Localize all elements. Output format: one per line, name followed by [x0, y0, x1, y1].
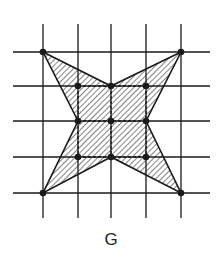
lattice-point [40, 49, 47, 56]
lattice-point [143, 83, 150, 90]
lattice-point [108, 154, 115, 161]
lattice-point [178, 49, 185, 56]
lattice-point [108, 118, 115, 125]
figure-label: G [0, 230, 218, 250]
lattice-point [40, 190, 47, 197]
lattice-point [75, 154, 82, 161]
lattice-point [178, 190, 185, 197]
lattice-point [108, 83, 115, 90]
star-grid-figure [0, 0, 218, 267]
lattice-point [143, 118, 150, 125]
lattice-point [143, 154, 150, 161]
lattice-point [75, 83, 82, 90]
lattice-point [75, 118, 82, 125]
